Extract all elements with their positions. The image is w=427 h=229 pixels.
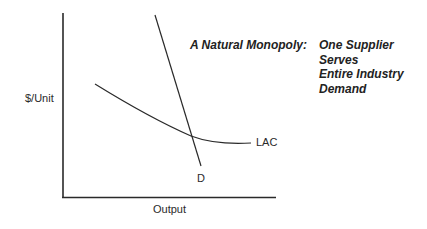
diagram-canvas bbox=[0, 0, 427, 229]
demand-label: D bbox=[197, 172, 205, 184]
title-line: Serves bbox=[319, 53, 404, 68]
title-line: One Supplier bbox=[319, 38, 404, 53]
y-axis-label: $/Unit bbox=[25, 92, 54, 104]
lac-curve bbox=[95, 84, 251, 143]
lac-label: LAC bbox=[256, 136, 277, 148]
diagram-title-lines: One Supplier Serves Entire Industry Dema… bbox=[319, 38, 404, 96]
title-line: Demand bbox=[319, 82, 404, 97]
diagram-title-prefix: A Natural Monopoly: bbox=[190, 38, 307, 53]
x-axis-label: Output bbox=[153, 203, 186, 215]
title-line: Entire Industry bbox=[319, 67, 404, 82]
